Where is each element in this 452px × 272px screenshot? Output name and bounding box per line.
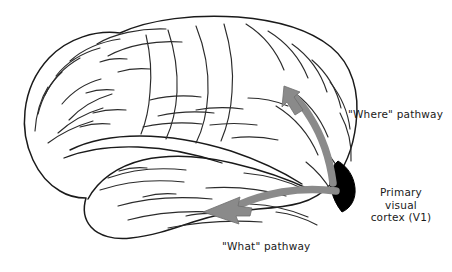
brain-diagram-svg bbox=[0, 0, 452, 272]
brain-visual-pathways-figure: "Where" pathway "What" pathway Primary v… bbox=[0, 0, 452, 272]
where-pathway-label: "Where" pathway bbox=[348, 108, 443, 121]
primary-visual-cortex-label-line3: cortex (V1) bbox=[358, 211, 444, 224]
primary-visual-cortex-label-line2: visual bbox=[358, 199, 444, 212]
sulcus-temporal-9 bbox=[276, 212, 317, 225]
primary-visual-cortex-label-line1: Primary bbox=[358, 186, 444, 199]
what-pathway-label: "What" pathway bbox=[222, 240, 311, 253]
primary-visual-cortex-label: Primary visual cortex (V1) bbox=[358, 186, 444, 224]
